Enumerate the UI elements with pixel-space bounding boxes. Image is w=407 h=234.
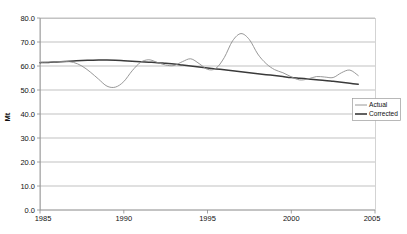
x-tick-label-1985: 1985: [35, 214, 52, 223]
y-tick-label-0: 0.0: [25, 206, 35, 215]
y-tick-label-60: 60.0: [20, 62, 35, 71]
y-tick-label-10: 10.0: [20, 182, 35, 191]
y-tick-label-40: 40.0: [20, 110, 35, 119]
chart-canvas: 80.0 70.0 60.0 50.0 40.0 30.0 20.0 10.0 …: [0, 0, 407, 234]
x-tick-label-2000: 2000: [283, 214, 300, 223]
line-chart: 80.0 70.0 60.0 50.0 40.0 30.0 20.0 10.0 …: [0, 0, 407, 234]
legend-label-corrected: Corrected: [369, 110, 398, 117]
y-tick-label-30: 30.0: [20, 134, 35, 143]
x-tick-label-2005: 2005: [364, 214, 381, 223]
y-tick-label-70: 70.0: [20, 38, 35, 47]
x-tick-label-1995: 1995: [199, 214, 216, 223]
y-tick-label-20: 20.0: [20, 158, 35, 167]
legend-label-actual: Actual: [369, 101, 388, 108]
x-tick-label-1990: 1990: [115, 214, 132, 223]
y-tick-label-50: 50.0: [20, 86, 35, 95]
chart-background: [0, 0, 407, 234]
y-tick-label-80: 80.0: [20, 14, 35, 23]
y-axis-title: Mt: [3, 112, 12, 121]
chart-legend: Actual Corrected: [353, 99, 401, 121]
